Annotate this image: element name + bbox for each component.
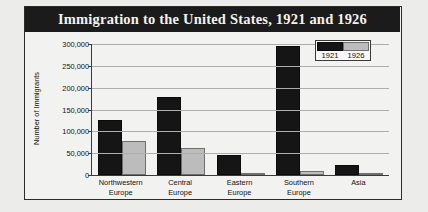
legend-label-1921: 1921 xyxy=(317,51,343,60)
legend-swatches xyxy=(317,42,369,51)
y-tick-label: 150,000 xyxy=(62,105,89,114)
bar-1926 xyxy=(241,173,265,175)
bar-1926 xyxy=(122,141,146,175)
page-title: Immigration to the United States, 1921 a… xyxy=(58,11,367,28)
x-axis-tick-labels: NorthwesternEuropeCentralEuropeEasternEu… xyxy=(91,178,388,197)
y-tick-mark xyxy=(88,131,92,132)
gridline xyxy=(92,131,389,132)
y-tick-mark xyxy=(88,66,92,67)
y-tick-mark xyxy=(88,44,92,45)
x-tick-label: EasternEurope xyxy=(210,178,269,197)
bar-1926 xyxy=(359,173,383,175)
bar-1921 xyxy=(335,165,359,175)
y-axis-title: Number of Immigrants xyxy=(31,42,43,175)
plot-area: Number of Immigrants 050,000100,000150,0… xyxy=(25,32,400,199)
x-tick-label: Asia xyxy=(329,178,388,197)
gridline xyxy=(92,110,389,111)
gridline xyxy=(92,153,389,154)
legend-labels: 19211926 xyxy=(317,51,369,60)
x-tick-label: CentralEurope xyxy=(150,178,209,197)
gridline xyxy=(92,66,389,67)
y-axis-tick-labels: 050,000100,000150,000200,000250,000300,0… xyxy=(43,32,89,199)
y-tick-label: 50,000 xyxy=(66,149,89,158)
y-axis-title-text: Number of Immigrants xyxy=(33,72,42,145)
y-tick-mark xyxy=(88,88,92,89)
x-tick-label: NorthwesternEurope xyxy=(91,178,150,197)
bar-1926 xyxy=(181,148,205,175)
y-tick-label: 200,000 xyxy=(62,83,89,92)
y-tick-label: 250,000 xyxy=(62,61,89,70)
axes xyxy=(91,44,389,176)
x-tick-label: SouthernEurope xyxy=(269,178,328,197)
chart-page: Immigration to the United States, 1921 a… xyxy=(0,0,428,212)
y-tick-label: 300,000 xyxy=(62,40,89,49)
bar-1926 xyxy=(300,171,324,175)
legend-swatch-1926 xyxy=(343,42,369,51)
y-tick-mark xyxy=(88,110,92,111)
legend-label-1926: 1926 xyxy=(343,51,369,60)
y-tick-mark xyxy=(88,175,92,176)
bar-1921 xyxy=(217,155,241,175)
y-tick-mark xyxy=(88,153,92,154)
y-tick-label: 100,000 xyxy=(62,127,89,136)
legend: 19211926 xyxy=(315,40,371,61)
gridline xyxy=(92,88,389,89)
chart-title-banner: Immigration to the United States, 1921 a… xyxy=(25,7,400,32)
legend-swatch-1921 xyxy=(317,42,343,51)
bar-1921 xyxy=(98,120,122,175)
